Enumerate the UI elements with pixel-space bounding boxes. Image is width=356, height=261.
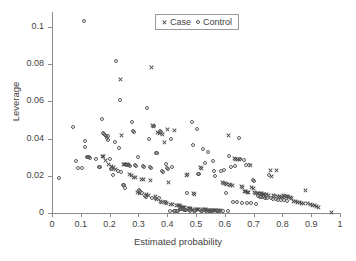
- data-point-case: [100, 154, 105, 159]
- data-point-case: [165, 127, 170, 132]
- data-point-case: [221, 181, 226, 186]
- data-point-control: [244, 163, 248, 167]
- data-point-case: [188, 206, 193, 211]
- data-point-control: [57, 176, 61, 180]
- data-point-control: [213, 174, 217, 178]
- data-point-control: [183, 208, 187, 212]
- y-tick-label: 0.02: [4, 170, 44, 180]
- data-point-case: [255, 191, 260, 196]
- data-point-control: [137, 188, 141, 192]
- data-point-case: [237, 157, 242, 162]
- data-point-control: [165, 166, 169, 170]
- data-point-control: [182, 208, 186, 212]
- data-point-case: [149, 65, 154, 70]
- data-point-case: [259, 191, 264, 196]
- data-point-case: [253, 191, 258, 196]
- data-point-control: [192, 209, 196, 213]
- data-point-control: [83, 145, 87, 149]
- data-point-control: [237, 136, 241, 140]
- data-point-case: [226, 133, 231, 138]
- data-point-case: [210, 208, 215, 213]
- data-point-case: [271, 193, 276, 198]
- data-point-case: [129, 173, 134, 178]
- data-point-control: [263, 196, 267, 200]
- data-point-control: [251, 178, 255, 182]
- data-point-case: [308, 202, 313, 207]
- data-point-case: [272, 194, 277, 199]
- data-point-control: [256, 194, 260, 198]
- data-point-control: [227, 154, 231, 158]
- chart-legend: Case Control: [155, 14, 239, 30]
- data-point-control: [191, 143, 195, 147]
- data-point-control: [164, 162, 168, 166]
- data-point-control: [140, 191, 144, 195]
- data-point-case: [168, 202, 173, 207]
- data-point-case: [119, 133, 124, 138]
- data-point-case: [203, 207, 208, 212]
- data-point-control: [216, 209, 220, 213]
- data-point-case: [160, 132, 165, 137]
- legend-label-case: Case: [170, 17, 191, 27]
- data-point-control: [212, 169, 216, 173]
- data-point-case: [239, 184, 244, 189]
- data-point-control: [170, 165, 174, 169]
- x-tick-label: 0.2: [95, 219, 125, 229]
- x-tick-label: 0.8: [267, 219, 297, 229]
- data-point-case: [301, 201, 306, 206]
- data-point-case: [158, 199, 163, 204]
- data-point-control: [219, 169, 223, 173]
- data-point-case: [103, 158, 108, 163]
- data-point-case: [289, 196, 294, 201]
- data-point-control: [211, 159, 215, 163]
- data-point-case: [106, 162, 111, 167]
- data-point-case: [256, 191, 261, 196]
- x-tick: [167, 213, 168, 217]
- data-point-case: [133, 175, 138, 180]
- data-point-control: [134, 164, 138, 168]
- data-point-control: [144, 195, 148, 199]
- data-point-case: [154, 197, 159, 202]
- x-tick: [311, 213, 312, 217]
- data-point-control: [150, 196, 154, 200]
- data-point-case: [227, 182, 232, 187]
- data-point-control: [258, 195, 262, 199]
- data-point-case: [163, 200, 168, 205]
- data-point-control: [143, 194, 147, 198]
- y-tick-label: 0: [4, 207, 44, 217]
- data-point-control: [238, 157, 242, 161]
- plot-data-area: [52, 12, 340, 213]
- data-point-control: [80, 166, 84, 170]
- data-point-case: [240, 185, 245, 190]
- data-point-control: [259, 195, 263, 199]
- data-point-case: [243, 189, 248, 194]
- data-point-case: [185, 172, 190, 177]
- data-point-case: [261, 192, 266, 197]
- data-point-control: [199, 209, 203, 213]
- data-point-case: [200, 207, 205, 212]
- data-point-control: [276, 198, 280, 202]
- data-point-case: [150, 123, 155, 128]
- data-point-control: [185, 191, 189, 195]
- x-tick-label: 0.1: [66, 219, 96, 229]
- data-point-control: [193, 209, 197, 213]
- data-point-control: [125, 163, 129, 167]
- x-tick: [138, 213, 139, 217]
- data-point-control: [132, 130, 136, 134]
- data-point-case: [192, 192, 197, 197]
- data-point-case: [223, 181, 228, 186]
- data-point-control: [123, 186, 127, 190]
- data-point-control: [163, 200, 167, 204]
- data-point-case: [164, 201, 169, 206]
- data-point-case: [170, 202, 175, 207]
- data-point-control: [208, 209, 212, 213]
- data-point-case: [182, 205, 187, 210]
- data-point-control: [169, 137, 173, 141]
- data-point-case: [148, 178, 153, 183]
- data-point-control: [101, 131, 105, 135]
- data-point-control: [103, 133, 107, 137]
- data-point-case: [248, 163, 253, 168]
- data-point-case: [286, 195, 291, 200]
- data-point-control: [118, 98, 122, 102]
- data-point-case: [242, 189, 247, 194]
- data-point-control: [188, 209, 192, 213]
